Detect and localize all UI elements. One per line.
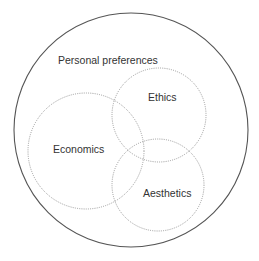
personal-preferences-circle xyxy=(14,13,248,247)
aesthetics-circle xyxy=(112,139,204,231)
ethics-circle xyxy=(112,68,206,162)
aesthetics-label: Aesthetics xyxy=(143,187,191,199)
venn-diagram: Personal preferences Ethics Economics Ae… xyxy=(0,0,259,261)
personal-preferences-label: Personal preferences xyxy=(58,54,158,66)
ethics-label: Ethics xyxy=(148,91,177,103)
economics-label: Economics xyxy=(53,143,104,155)
